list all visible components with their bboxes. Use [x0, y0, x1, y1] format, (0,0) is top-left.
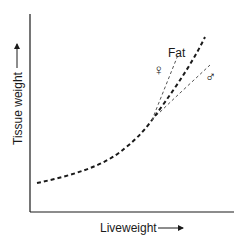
x-axis-label: Liveweight — [100, 221, 157, 235]
female-symbol: ♀ — [153, 61, 164, 78]
fat-label: Fat — [168, 46, 186, 60]
male-symbol: ♂ — [205, 68, 216, 85]
y-axis-label: Tissue weight — [11, 71, 25, 145]
tissue-growth-diagram: Fat ♀ ♂ Liveweight Tissue weight — [0, 0, 243, 240]
